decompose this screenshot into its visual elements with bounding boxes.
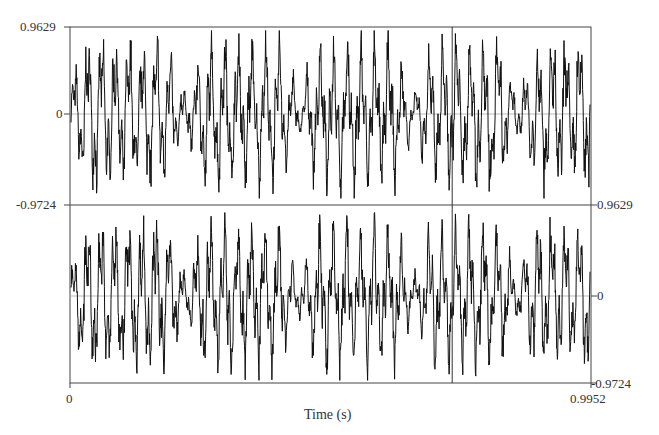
- x-axis-title: Time (s): [304, 408, 351, 422]
- channel-1-max-label: 0.9629: [20, 20, 56, 33]
- channel-2-zero-label: 0: [597, 289, 604, 302]
- waveform-plot: [0, 0, 659, 435]
- channel-2-min-label: -0.9724: [591, 377, 631, 390]
- channel-1-zero-label: 0: [56, 107, 63, 120]
- x-end-label: 0.9952: [570, 392, 606, 405]
- x-start-label: 0: [66, 392, 73, 405]
- channel-2-max-label: 0.9629: [597, 198, 633, 211]
- channel-1-min-label: -0.9724: [16, 198, 56, 211]
